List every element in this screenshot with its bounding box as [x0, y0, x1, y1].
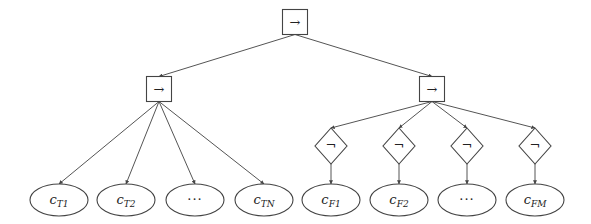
leaf-label-subscript: FM — [530, 199, 547, 209]
edge-imp_right-to-neg1 — [331, 102, 432, 129]
negation-node-neg1: ¬ — [315, 128, 347, 164]
edge-imp_left-to-cTdots — [159, 102, 195, 185]
leaf-label-subscript: F1 — [328, 199, 341, 209]
implication-node-imp_right: → — [420, 77, 445, 102]
negation-node-neg2: ¬ — [383, 128, 415, 164]
negation-icon: ¬ — [530, 138, 541, 153]
negation-icon: ¬ — [462, 138, 473, 153]
leaf-label-base: ··· — [187, 192, 202, 207]
leaf-node-cFM: cFM — [506, 184, 564, 216]
edges — [59, 35, 535, 185]
implication-arrow-icon: → — [290, 15, 301, 30]
leaf-node-cF2: cF2 — [370, 184, 428, 216]
leaf-label-subscript: F2 — [396, 199, 409, 209]
negation-node-neg3: ¬ — [451, 128, 483, 164]
negation-icon: ¬ — [394, 138, 405, 153]
leaf-node-cF1: cF1 — [302, 184, 360, 216]
leaf-node-cTdots: ··· — [166, 184, 224, 216]
implication-node-imp_left: → — [147, 77, 172, 102]
leaf-node-cFdots: ··· — [438, 184, 496, 216]
leaf-label-subscript: TN — [261, 199, 276, 209]
tree-diagram: →→→¬¬¬¬cT1cT2···cTNcF1cF2···cFM — [0, 0, 591, 224]
leaf-node-cTN: cTN — [235, 184, 293, 216]
edge-imp_left-to-cT2 — [126, 102, 159, 185]
negation-node-neg4: ¬ — [519, 128, 551, 164]
leaf-node-cT2: cT2 — [97, 184, 155, 216]
implication-node-root: → — [283, 10, 308, 35]
leaf-label-subscript: T2 — [124, 199, 136, 209]
leaf-node-cT1: cT1 — [30, 184, 88, 216]
negation-icon: ¬ — [326, 138, 337, 153]
edge-root-to-imp_left — [159, 35, 295, 77]
edge-root-to-imp_right — [295, 35, 432, 77]
implication-arrow-icon: → — [427, 82, 438, 97]
leaf-label-subscript: T1 — [57, 199, 69, 209]
nodes: →→→¬¬¬¬cT1cT2···cTNcF1cF2···cFM — [30, 10, 564, 217]
leaf-label: ··· — [459, 192, 474, 207]
leaf-label-base: ··· — [459, 192, 474, 207]
implication-arrow-icon: → — [154, 82, 165, 97]
edge-imp_right-to-neg3 — [432, 102, 467, 129]
edge-imp_left-to-cT1 — [59, 102, 159, 185]
edge-imp_right-to-neg4 — [432, 102, 535, 129]
edge-imp_left-to-cTN — [159, 102, 264, 185]
leaf-label: ··· — [187, 192, 202, 207]
